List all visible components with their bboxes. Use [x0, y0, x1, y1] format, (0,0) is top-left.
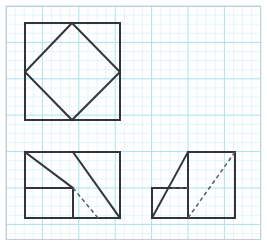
- geometry-figure-svg: [0, 0, 267, 246]
- worksheet-canvas: [0, 0, 267, 246]
